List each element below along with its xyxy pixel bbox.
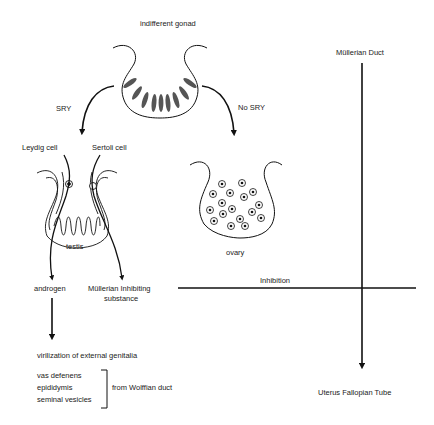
virilization-label: virilization of external genitalia: [37, 351, 137, 360]
indifferent-gonad-label: indifferent gonad: [140, 19, 196, 28]
mis-label-line1: Müllerian Inhibiting: [88, 284, 151, 293]
sry-label: SRY: [56, 104, 71, 113]
wolffian-item: vas defenens: [37, 371, 82, 380]
mis-label-line2: substance: [104, 294, 138, 303]
testis-icon: [37, 171, 117, 248]
ovary-label: ovary: [226, 248, 244, 257]
diagram-canvas: [0, 0, 434, 425]
indifferent-gonad-icon: [113, 45, 207, 118]
androgen-label: androgen: [34, 284, 66, 293]
mis-arrow: [92, 155, 122, 278]
inhibition-label: Inhibition: [260, 276, 290, 285]
no-sry-label: No SRY: [238, 103, 265, 112]
wolffian-bracket: [101, 370, 107, 408]
mullerian-duct-label: Müllerian Duct: [336, 48, 384, 57]
leydig-cell-label: Leydig cell: [22, 143, 57, 152]
sry-arrow: [82, 86, 114, 132]
wolffian-source-label: from Wolffian duct: [112, 383, 172, 392]
sertoli-cell-label: Sertoli cell: [92, 143, 127, 152]
uterus-fallopian-tube-label: Uterus Fallopian Tube: [318, 388, 391, 397]
wolffian-item: epididymis: [37, 383, 72, 392]
ovary-icon: [190, 162, 282, 238]
testis-label: testis: [66, 242, 84, 251]
no-sry-arrow: [202, 86, 234, 133]
wolffian-item: seminal vesicles: [37, 395, 92, 404]
